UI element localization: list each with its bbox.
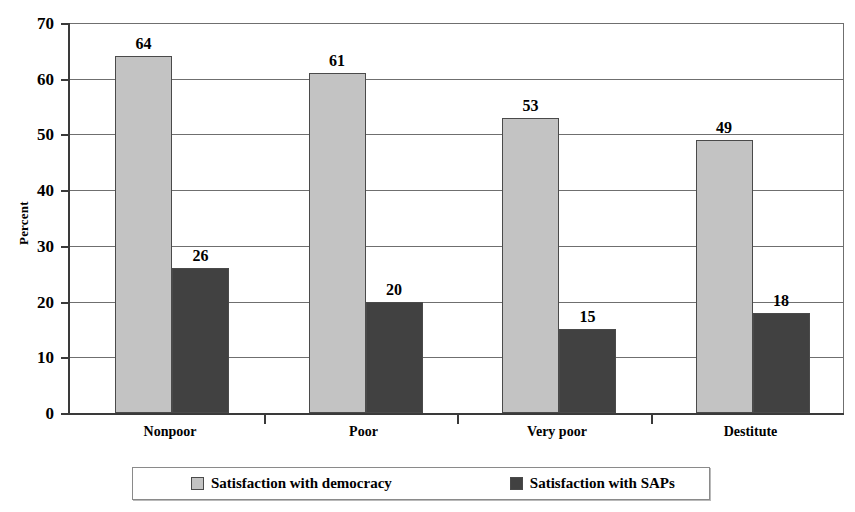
bar: 26 <box>172 268 229 413</box>
legend-swatch-icon <box>191 477 204 490</box>
y-axis-tick: 50 <box>61 134 70 136</box>
y-axis-tick-label: 20 <box>37 293 54 313</box>
chart-legend: Satisfaction with democracy Satisfaction… <box>132 467 710 500</box>
bar: 61 <box>309 73 366 413</box>
legend-swatch-icon <box>510 477 523 490</box>
legend-item-satisfaction-with-democracy[interactable]: Satisfaction with democracy <box>191 475 392 492</box>
plot-area: 010203040506070 6426612053154918 <box>68 23 844 415</box>
bar-chart-figure: Percent 010203040506070 6426612053154918… <box>0 0 855 512</box>
y-axis-tick-label: 0 <box>46 404 55 424</box>
bar-value-label: 18 <box>773 292 789 310</box>
bar: 18 <box>753 313 810 413</box>
y-axis-tick: 10 <box>61 357 70 359</box>
y-axis-tick: 40 <box>61 190 70 192</box>
bar: 49 <box>696 140 753 413</box>
bar-value-label: 26 <box>193 247 209 265</box>
x-axis-category-label: Very poor <box>527 424 587 440</box>
y-axis-tick-label: 50 <box>37 125 54 145</box>
legend-item-label: Satisfaction with SAPs <box>530 475 675 492</box>
bar: 20 <box>366 302 423 413</box>
y-axis-tick-label: 30 <box>37 237 54 257</box>
bar-value-label: 15 <box>580 308 596 326</box>
y-axis-tick: 30 <box>61 246 70 248</box>
y-axis-tick: 70 <box>61 23 70 25</box>
bar-value-label: 61 <box>329 52 345 70</box>
bar-value-label: 64 <box>136 35 152 53</box>
bar-value-label: 49 <box>716 119 732 137</box>
bar: 53 <box>502 118 559 413</box>
legend-item-label: Satisfaction with democracy <box>211 475 392 492</box>
bar: 64 <box>115 56 172 413</box>
bar: 15 <box>559 329 616 413</box>
x-axis-separator-tick <box>651 413 653 424</box>
x-axis-category-label: Nonpoor <box>144 424 197 440</box>
y-axis-tick-label: 70 <box>37 14 54 34</box>
y-axis-tick-label: 60 <box>37 70 54 90</box>
y-axis-tick: 0 <box>61 413 70 415</box>
bar-value-label: 20 <box>386 281 402 299</box>
plot-right-edge <box>843 23 844 413</box>
x-axis-category-label: Poor <box>349 424 378 440</box>
gridline <box>70 23 844 24</box>
x-axis-separator-tick <box>457 413 459 424</box>
y-axis-tick: 20 <box>61 302 70 304</box>
y-axis-tick: 60 <box>61 79 70 81</box>
x-axis-separator-tick <box>264 413 266 424</box>
y-axis-tick-label: 40 <box>37 181 54 201</box>
legend-item-satisfaction-with-saps[interactable]: Satisfaction with SAPs <box>510 475 675 492</box>
y-axis-title: Percent <box>14 178 34 268</box>
x-axis-category-label: Destitute <box>724 424 778 440</box>
bar-value-label: 53 <box>523 97 539 115</box>
gridline <box>70 79 844 80</box>
y-axis-tick-label: 10 <box>37 348 54 368</box>
